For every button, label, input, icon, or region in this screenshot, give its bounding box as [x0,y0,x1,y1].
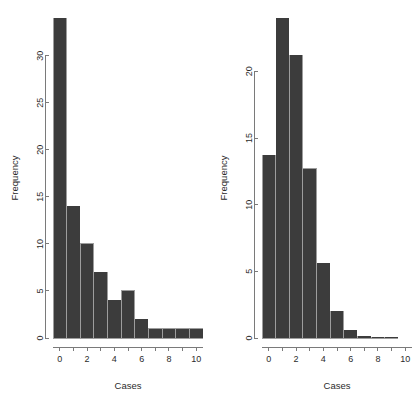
y-tick-label: 20 [35,145,45,155]
bar-2 [290,55,303,338]
bar-rect [54,18,67,338]
bar-rect [67,206,80,338]
x-axis-title: Cases [115,380,142,391]
x-tick-label: 0 [57,354,62,364]
x-tick-label: 8 [375,354,380,364]
bar-rect [385,337,398,338]
bar-6 [135,319,148,338]
bar-3 [94,272,107,338]
x-tick-label: 6 [348,354,353,364]
bar-4 [317,263,330,338]
bar-5 [122,291,135,338]
x-tick-label: 2 [85,354,90,364]
bar-6 [344,330,357,338]
bar-1 [276,18,289,338]
bar-0 [263,155,276,338]
y-axis-title: Frequency [9,155,20,200]
bar-2 [81,244,94,338]
bar-rect [358,336,371,338]
histogram-figure: 0510152025300246810CasesFrequency 051015… [0,0,418,409]
bar-rect [176,329,189,338]
y-tick-label: 15 [35,192,45,202]
bar-rect [149,329,162,338]
y-tick-label: 30 [35,51,45,61]
bar-rect [331,311,344,338]
x-tick-label: 0 [266,354,271,364]
bar-rect [372,337,385,338]
x-tick-label: 10 [400,354,410,364]
left-histogram-panel: 0510152025300246810CasesFrequency [0,0,209,409]
bar-1 [67,206,80,338]
y-tick-label: 15 [244,133,254,143]
x-tick-label: 4 [112,354,117,364]
left-chart-svg: 0510152025300246810CasesFrequency [0,0,209,409]
y-axis-title: Frequency [218,155,229,200]
y-tick-label: 10 [244,200,254,210]
bar-rect [290,55,303,338]
bar-8 [372,337,385,338]
bar-8 [163,329,176,338]
y-tick-label: 10 [35,239,45,249]
bar-rect [303,169,316,338]
bar-10 [190,329,203,338]
bar-rect [122,291,135,338]
bar-rect [135,319,148,338]
bar-4 [108,300,121,338]
right-plot-area: 051015200246810CasesFrequency [209,0,418,409]
x-tick-label: 8 [166,354,171,364]
right-histogram-panel: 051015200246810CasesFrequency [209,0,418,409]
bar-9 [385,337,398,338]
x-tick-label: 6 [139,354,144,364]
x-tick-label: 10 [191,354,201,364]
bar-rect [263,155,276,338]
bar-rect [317,263,330,338]
x-tick-label: 2 [294,354,299,364]
bar-0 [54,18,67,338]
y-tick-label: 25 [35,98,45,108]
y-tick-label: 0 [35,335,45,340]
x-tick-label: 4 [321,354,326,364]
bar-3 [303,169,316,338]
bar-rect [344,330,357,338]
right-chart-svg: 051015200246810CasesFrequency [209,0,418,409]
bar-rect [163,329,176,338]
y-tick-label: 5 [244,269,254,274]
left-plot-area: 0510152025300246810CasesFrequency [0,0,209,409]
bar-5 [331,311,344,338]
bar-7 [149,329,162,338]
y-tick-label: 0 [244,335,254,340]
bar-rect [190,329,203,338]
bar-rect [276,18,289,338]
x-axis-title: Cases [324,380,351,391]
bar-rect [108,300,121,338]
bar-rect [81,244,94,338]
bar-7 [358,336,371,338]
bar-rect [94,272,107,338]
bar-9 [176,329,189,338]
y-tick-label: 5 [35,288,45,293]
y-tick-label: 20 [244,66,254,76]
